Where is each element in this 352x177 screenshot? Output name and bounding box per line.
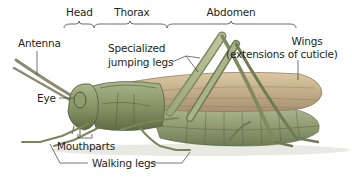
label-wings-line1: Wings <box>280 35 334 47</box>
label-head: Head <box>66 6 92 18</box>
region-brackets <box>64 21 296 28</box>
label-wings-line2: (extensions of cuticle) <box>226 48 338 60</box>
specialized-legs-leader <box>172 56 200 72</box>
label-specialized-legs-line2: jumping legs <box>108 56 173 68</box>
abdomen-bracket <box>167 21 296 28</box>
label-mouthparts: Mouthparts <box>57 140 115 152</box>
label-thorax: Thorax <box>110 6 154 18</box>
grasshopper-illustration <box>0 0 352 177</box>
label-eye: Eye <box>37 92 56 104</box>
thorax-shape <box>91 81 165 130</box>
label-walking-legs: Walking legs <box>92 157 156 169</box>
label-abdomen: Abdomen <box>202 6 260 18</box>
thorax-bracket <box>94 21 167 28</box>
eye-shape <box>74 92 86 108</box>
head-bracket <box>64 21 94 28</box>
head-shape <box>68 84 98 136</box>
label-specialized-legs-line1: Specialized <box>108 42 165 54</box>
label-antenna: Antenna <box>18 37 61 49</box>
